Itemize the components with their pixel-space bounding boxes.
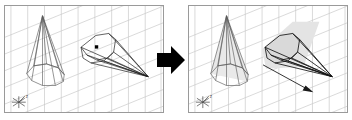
center-point-marker[interactable] xyxy=(95,45,98,48)
viewport-before[interactable]: z xyxy=(4,5,164,113)
axis-compass-label: z xyxy=(26,94,28,99)
direction-arrow xyxy=(263,65,313,92)
lying-cone[interactable] xyxy=(81,33,148,76)
viewport-after[interactable]: z xyxy=(188,5,348,113)
axis-compass-label: z xyxy=(210,94,212,99)
right-arrow-icon xyxy=(156,44,186,76)
axis-compass-icon xyxy=(12,96,26,108)
axis-compass-icon xyxy=(196,96,210,108)
before-after-figure: z xyxy=(0,0,352,120)
